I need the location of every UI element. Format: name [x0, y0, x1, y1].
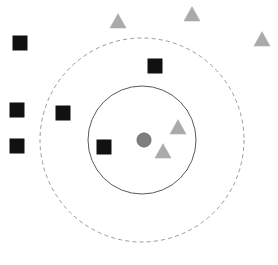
centroid-layer — [137, 133, 151, 147]
marker-square — [10, 139, 24, 153]
diagram-canvas — [0, 0, 278, 265]
marker-square — [97, 140, 111, 154]
cluster-centroid — [137, 133, 151, 147]
marker-square — [148, 59, 162, 73]
marker-triangle — [170, 120, 186, 134]
marker-triangle — [110, 14, 126, 28]
marker-square — [56, 106, 70, 120]
marker-triangle — [184, 7, 200, 21]
marker-square — [13, 36, 27, 50]
marker-square — [10, 103, 24, 117]
marker-triangle — [254, 32, 270, 46]
plot-area — [0, 0, 278, 265]
marker-triangle — [155, 144, 171, 158]
series-triangles — [110, 7, 270, 158]
